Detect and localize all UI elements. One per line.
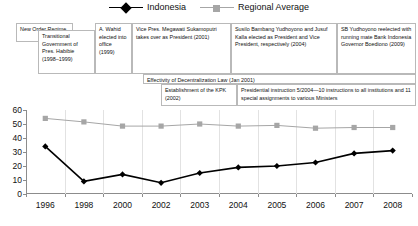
data-point-marker bbox=[274, 123, 279, 128]
x-tick-label: 1998 bbox=[74, 200, 93, 210]
x-tick-label: 2005 bbox=[267, 200, 286, 210]
series-line bbox=[45, 146, 392, 182]
data-point-marker bbox=[351, 150, 357, 156]
legend-swatch-indonesia bbox=[109, 3, 143, 12]
x-tick-label: 1996 bbox=[36, 200, 55, 210]
series-line bbox=[45, 118, 392, 128]
x-tick-mark bbox=[142, 194, 143, 197]
x-tick-mark bbox=[412, 194, 413, 197]
legend-entry-indonesia: Indonesia bbox=[109, 2, 186, 12]
data-point-marker bbox=[119, 171, 125, 177]
annotation-megawati-president: Vice Pres. Megawati Sukamoputri takes ov… bbox=[132, 23, 231, 74]
x-tick-label: 2008 bbox=[383, 200, 402, 210]
data-point-marker bbox=[236, 124, 241, 129]
data-point-marker bbox=[390, 148, 396, 154]
y-tick-label: 50 bbox=[0, 119, 22, 129]
annotation-transitional-government: Transitional Government of Pres. Habibie… bbox=[38, 30, 95, 74]
y-tick-label: 20 bbox=[0, 161, 22, 171]
x-tick-mark bbox=[335, 194, 336, 197]
data-point-marker bbox=[235, 164, 241, 170]
data-point-marker bbox=[274, 163, 280, 169]
chart-figure: Indonesia Regional Average New Order Reg… bbox=[0, 0, 418, 226]
data-point-marker bbox=[43, 116, 48, 121]
y-tick-label: 60 bbox=[0, 105, 22, 115]
data-point-marker bbox=[158, 180, 164, 186]
legend-label-regional-average: Regional Average bbox=[238, 2, 309, 12]
x-tick-label: 2006 bbox=[306, 200, 325, 210]
x-tick-label: 2007 bbox=[345, 200, 364, 210]
x-tick-mark bbox=[26, 194, 27, 197]
data-point-marker bbox=[197, 121, 202, 126]
series-indonesia bbox=[42, 143, 396, 186]
annotation-kpk-establishment: Establishment of the KPK (2002) bbox=[161, 84, 237, 106]
annotation-decentralization-law: Effectivity of Decentralization Law (Jan… bbox=[143, 74, 416, 84]
y-tick-label: 40 bbox=[0, 133, 22, 143]
legend-entry-regional-average: Regional Average bbox=[200, 2, 309, 12]
annotation-sby-reelected: SB Yudhoyono reelected with running mate… bbox=[337, 23, 416, 74]
series-regional-average bbox=[43, 116, 396, 131]
x-tick-mark bbox=[219, 194, 220, 197]
x-tick-mark bbox=[296, 194, 297, 197]
data-point-marker bbox=[159, 124, 164, 129]
data-point-marker bbox=[390, 125, 395, 130]
x-tick-mark bbox=[258, 194, 259, 197]
data-point-marker bbox=[313, 126, 318, 131]
data-point-marker bbox=[312, 159, 318, 165]
x-tick-label: 2004 bbox=[229, 200, 248, 210]
y-tick-label: 0 bbox=[0, 189, 22, 199]
y-tick-label: 10 bbox=[0, 175, 22, 185]
x-tick-mark bbox=[180, 194, 181, 197]
y-tick-label: 30 bbox=[0, 147, 22, 157]
data-point-marker bbox=[120, 124, 125, 129]
x-tick-mark bbox=[373, 194, 374, 197]
annotation-sby-jk-elected: Susilo Bambang Yudhoyono and Jusuf Kalla… bbox=[231, 23, 337, 74]
annotation-presidential-instruction: Presidential instruction 5/2004—10 instr… bbox=[237, 84, 416, 106]
x-tick-label: 2000 bbox=[113, 200, 132, 210]
data-point-marker bbox=[197, 170, 203, 176]
x-tick-label: 2002 bbox=[152, 200, 171, 210]
x-tick-label: 2003 bbox=[190, 200, 209, 210]
data-point-marker bbox=[81, 119, 86, 124]
x-tick-mark bbox=[65, 194, 66, 197]
annotation-wahid-elected: A. Wahid elected into office (1999) bbox=[95, 23, 132, 74]
legend-label-indonesia: Indonesia bbox=[147, 2, 186, 12]
chart-legend: Indonesia Regional Average bbox=[0, 2, 418, 12]
data-series-layer bbox=[26, 110, 412, 194]
legend-swatch-regional-average bbox=[200, 3, 234, 12]
data-point-marker bbox=[352, 125, 357, 130]
plot-area: 0102030405060 19961998200020022003200420… bbox=[26, 110, 412, 194]
x-tick-mark bbox=[103, 194, 104, 197]
